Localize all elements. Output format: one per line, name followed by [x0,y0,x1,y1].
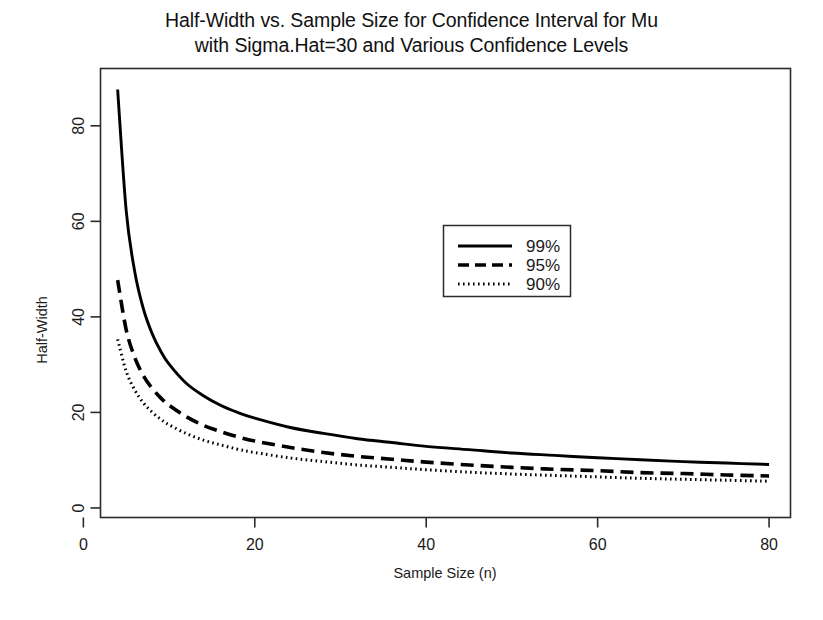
y-tick-label: 20 [70,403,87,421]
x-axis-tick-labels: 020406080 [79,536,778,553]
x-tick-label: 0 [79,536,88,553]
y-tick-label: 40 [70,308,87,326]
chart-legend: 99%95%90% [444,226,571,297]
x-tick-label: 40 [417,536,435,553]
x-tick-label: 20 [246,536,264,553]
chart-title-line-1: Half-Width vs. Sample Size for Confidenc… [0,8,823,33]
legend-label-95pct: 95% [526,256,560,275]
y-axis-title: Half-Width [34,296,50,364]
y-axis-tick-labels: 020406080 [70,117,87,513]
plot-canvas: 020406080 020406080 Sample Size (n) Half… [0,0,823,620]
chart-title: Half-Width vs. Sample Size for Confidenc… [0,8,823,58]
y-axis-ticks [91,126,101,508]
y-tick-label: 0 [70,503,87,512]
legend-label-99pct: 99% [526,237,560,256]
y-tick-label: 80 [70,117,87,135]
chart-figure: Half-Width vs. Sample Size for Confidenc… [0,0,823,620]
y-tick-label: 60 [70,212,87,230]
x-axis-ticks [83,518,769,528]
chart-title-line-2: with Sigma.Hat=30 and Various Confidence… [0,33,823,58]
x-tick-label: 60 [589,536,607,553]
x-axis-title: Sample Size (n) [393,565,496,581]
x-tick-label: 80 [760,536,778,553]
legend-label-90pct: 90% [526,275,560,294]
